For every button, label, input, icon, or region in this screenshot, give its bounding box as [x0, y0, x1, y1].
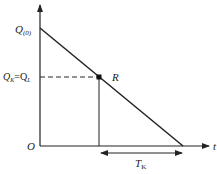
point-r-marker — [97, 75, 102, 80]
label-r: R — [111, 71, 119, 83]
inventory-diagram: Q(0) QK=QL R O t TK — [0, 0, 217, 174]
label-t-axis: t — [213, 140, 217, 152]
depletion-line — [40, 28, 183, 146]
label-tk: TK — [135, 157, 146, 171]
label-qk-ql: QK=QL — [3, 71, 31, 83]
label-q0: Q(0) — [15, 23, 32, 37]
label-origin: O — [27, 140, 35, 152]
